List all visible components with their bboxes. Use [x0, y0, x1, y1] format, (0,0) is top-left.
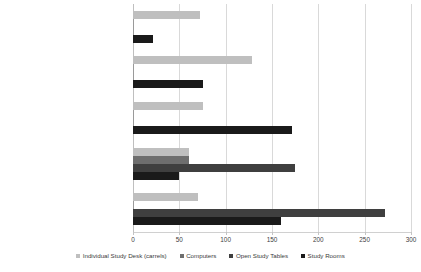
x-tick-mark	[318, 232, 319, 235]
bar	[133, 72, 134, 80]
x-tick-label: 0	[131, 236, 135, 243]
legend-item[interactable]: Study Rooms	[301, 252, 345, 260]
x-tick-mark	[133, 232, 134, 235]
x-tick-label: 100	[220, 236, 231, 243]
category-group	[0, 102, 421, 134]
bar-chart: Individual Study Desk (carrels)Computers…	[0, 0, 421, 272]
bar	[133, 148, 189, 156]
legend-swatch-icon	[180, 254, 184, 258]
legend-swatch-icon	[301, 254, 305, 258]
bar	[133, 11, 200, 19]
legend-item[interactable]: Individual Study Desk (carrels)	[76, 252, 166, 260]
x-tick-mark	[179, 232, 180, 235]
legend-label: Computers	[186, 252, 216, 260]
bar	[133, 172, 179, 180]
bar	[133, 209, 385, 217]
legend-label: Individual Study Desk (carrels)	[83, 252, 167, 260]
x-tick-mark	[411, 232, 412, 235]
category-group	[0, 56, 421, 88]
bar	[133, 64, 134, 72]
chart-legend: Individual Study Desk (carrels)Computers…	[0, 252, 421, 260]
bar	[133, 201, 134, 209]
category-group	[0, 148, 421, 180]
bar	[133, 156, 189, 164]
bar	[133, 35, 153, 43]
x-tick-label: 200	[313, 236, 324, 243]
bar	[133, 56, 252, 64]
x-tick-label: 50	[176, 236, 183, 243]
bar	[133, 118, 134, 126]
x-tick-mark	[272, 232, 273, 235]
x-tick-mark	[226, 232, 227, 235]
legend-swatch-icon	[229, 254, 233, 258]
bar	[133, 27, 134, 35]
bar	[133, 217, 281, 225]
category-group	[0, 11, 421, 43]
bar	[133, 80, 203, 88]
legend-label: Study Rooms	[308, 252, 345, 260]
category-group	[0, 193, 421, 225]
x-tick-label: 150	[267, 236, 278, 243]
bar	[133, 193, 198, 201]
legend-item[interactable]: Computers	[180, 252, 217, 260]
legend-swatch-icon	[76, 254, 80, 258]
x-tick-mark	[365, 232, 366, 235]
bar	[133, 164, 295, 172]
bar	[133, 110, 134, 118]
bar	[133, 102, 203, 110]
legend-item[interactable]: Open Study Tables	[229, 252, 288, 260]
legend-label: Open Study Tables	[236, 252, 288, 260]
x-tick-label: 300	[406, 236, 417, 243]
bar	[133, 19, 134, 27]
x-tick-label: 250	[359, 236, 370, 243]
bar	[133, 126, 292, 134]
